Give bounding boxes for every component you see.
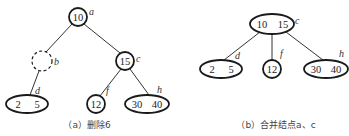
diagram-a-node-h: 30 40 h (125, 84, 169, 113)
node-label: h (157, 84, 162, 95)
edge-a-c (84, 24, 120, 53)
edge-c-h (130, 69, 149, 95)
node-key: 10 (257, 19, 268, 30)
node-label: f (280, 48, 284, 59)
node-label: f (106, 85, 110, 96)
diagram-a-node-b: b (32, 51, 59, 71)
diagram-a-node-d: 2 5 d (6, 85, 48, 113)
node-key: 30 (311, 64, 322, 75)
caption-b: （b）合并结点a、c (236, 119, 315, 130)
diagram-b-node-h: 30 40 h (304, 48, 348, 78)
diagram-b-node-d: 2 5 d (200, 50, 242, 78)
node-key: 15 (120, 56, 131, 67)
node-label: c (295, 15, 300, 26)
diagram-a-node-f: 12 f (87, 85, 110, 113)
b-tree-deletion-diagram: 10 a b 15 c 2 5 d 12 f 30 40 h （a）删除6 10… (0, 0, 349, 136)
node-key: 30 (132, 99, 143, 110)
edge-c-f (100, 69, 121, 96)
node-label: d (235, 50, 241, 61)
diagram-a-node-a: 10 a (69, 6, 94, 26)
node-key: 15 (278, 19, 289, 30)
node-label: a (89, 6, 94, 17)
node-label: c (136, 53, 141, 64)
node-key: 5 (228, 64, 233, 75)
edge-a-b (46, 24, 72, 52)
node-key: 12 (91, 99, 102, 110)
edge-c-d (224, 32, 260, 60)
node-key: 12 (267, 64, 278, 75)
node-key: 5 (34, 99, 39, 110)
node-key: 2 (209, 64, 214, 75)
node-key: 10 (73, 12, 84, 23)
node-label: d (35, 85, 41, 96)
node-label: h (339, 48, 344, 59)
node-label: b (54, 56, 59, 67)
node-key: 40 (331, 64, 342, 75)
diagram-b-node-c: 10 15 c (250, 14, 300, 34)
node-key: 2 (15, 99, 20, 110)
caption-a: （a）删除6 (63, 119, 111, 130)
edge-c-h (286, 32, 323, 60)
diagram-a-node-c: 15 c (116, 52, 141, 70)
node-key: 40 (152, 99, 163, 110)
diagram-b-node-f: 12 f (263, 48, 284, 78)
